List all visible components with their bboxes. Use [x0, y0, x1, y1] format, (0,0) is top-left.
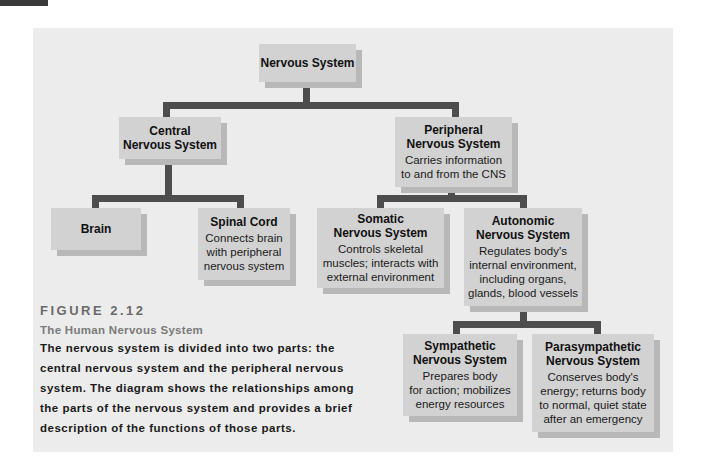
- node-description: energy; returns body: [540, 384, 645, 398]
- node-description: for action; mobilizes: [409, 383, 511, 397]
- node-description: including organs,: [480, 272, 567, 286]
- node-description: nervous system: [204, 259, 285, 273]
- connector-cns-horizontal: [92, 195, 244, 202]
- node-nervous-system: Nervous System: [259, 44, 356, 82]
- node-title: Autonomic: [492, 214, 555, 228]
- connector-autonomic-horizontal: [453, 321, 601, 328]
- connector-sympathetic-drop: [453, 321, 460, 335]
- node-title: Nervous System: [123, 138, 217, 152]
- node-description: to and from the CNS: [401, 167, 506, 181]
- node-description: Connects brain: [205, 231, 282, 245]
- node-title: Nervous System: [406, 137, 500, 151]
- connector-pns-horizontal: [377, 195, 527, 202]
- figure-caption: FIGURE 2.12 The Human Nervous System The…: [40, 303, 370, 438]
- node-title: Nervous System: [260, 56, 354, 70]
- node-title: Brain: [81, 222, 112, 236]
- node-description: energy resources: [416, 397, 505, 411]
- node-peripheral-nervous-system: Peripheral Nervous System Carries inform…: [395, 117, 512, 187]
- connector-spinal-drop: [237, 195, 244, 209]
- node-description: Regulates body's: [479, 244, 567, 258]
- connector-somatic-drop: [377, 195, 384, 209]
- node-title: Nervous System: [333, 226, 427, 240]
- connector-pns-drop: [452, 102, 459, 118]
- node-title: Parasympathetic: [545, 340, 641, 354]
- figure-description: The nervous system is divided into two p…: [40, 338, 370, 438]
- node-description: to normal, quiet state: [539, 398, 646, 412]
- node-description: Carries information: [405, 153, 502, 167]
- node-central-nervous-system: Central Nervous System: [119, 117, 221, 159]
- connector-level1-horizontal: [163, 102, 459, 109]
- node-description: internal environment,: [469, 258, 576, 272]
- node-spinal-cord: Spinal Cord Connects brain with peripher…: [198, 208, 290, 280]
- node-title: Central: [149, 124, 190, 138]
- caption-line: description of the functions of those pa…: [40, 418, 370, 438]
- node-title: Sympathetic: [424, 339, 495, 353]
- node-description: Prepares body: [423, 369, 498, 383]
- page-corner-tab: [0, 0, 48, 6]
- connector-brain-drop: [92, 195, 99, 209]
- node-parasympathetic-nervous-system: Parasympathetic Nervous System Conserves…: [532, 334, 654, 432]
- connector-autonomic-drop: [520, 195, 527, 209]
- node-title: Nervous System: [476, 228, 570, 242]
- node-description: after an emergency: [543, 412, 642, 426]
- node-description: muscles; interacts with: [323, 256, 439, 270]
- node-autonomic-nervous-system: Autonomic Nervous System Regulates body'…: [464, 208, 582, 306]
- figure-number: FIGURE 2.12: [40, 303, 370, 318]
- node-description: Controls skeletal: [338, 242, 423, 256]
- node-description: Conserves body's: [547, 370, 638, 384]
- connector-parasympathetic-drop: [594, 321, 601, 335]
- node-title: Nervous System: [413, 353, 507, 367]
- node-description: glands, blood vessels: [468, 286, 578, 300]
- caption-line: the parts of the nervous system and prov…: [40, 398, 370, 418]
- node-title: Spinal Cord: [210, 215, 277, 229]
- node-brain: Brain: [51, 208, 141, 250]
- node-somatic-nervous-system: Somatic Nervous System Controls skeletal…: [317, 208, 444, 288]
- figure-title: The Human Nervous System: [40, 324, 370, 336]
- caption-line: The nervous system is divided into two p…: [40, 338, 370, 358]
- node-title: Peripheral: [424, 123, 483, 137]
- caption-line: central nervous system and the periphera…: [40, 358, 370, 378]
- node-title: Somatic: [357, 212, 404, 226]
- node-sympathetic-nervous-system: Sympathetic Nervous System Prepares body…: [403, 334, 517, 416]
- connector-cns-drop: [163, 102, 170, 118]
- node-description: with peripheral: [207, 245, 282, 259]
- node-description: external environment: [327, 270, 434, 284]
- caption-line: system. The diagram shows the relationsh…: [40, 378, 370, 398]
- node-title: Nervous System: [546, 354, 640, 368]
